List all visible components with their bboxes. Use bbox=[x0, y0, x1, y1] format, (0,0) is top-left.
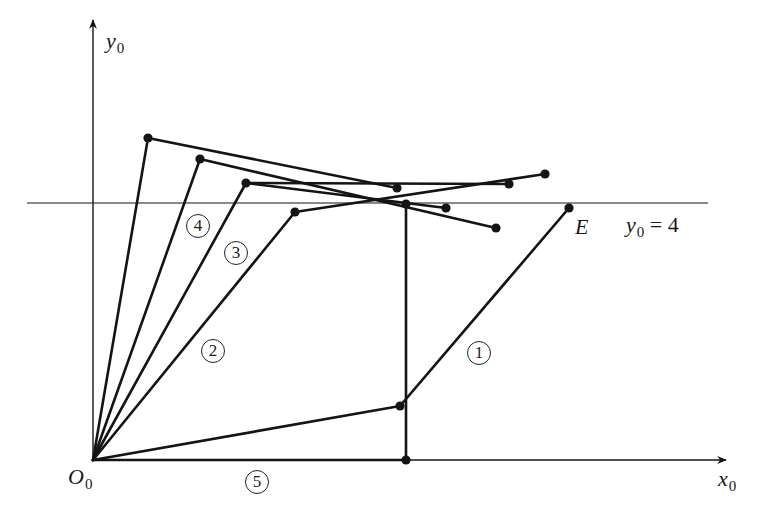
link-path-b-2 bbox=[200, 159, 496, 228]
joint-dot bbox=[401, 199, 410, 208]
joint-dot bbox=[491, 223, 500, 232]
y-axis-label: y0 bbox=[106, 28, 124, 54]
reference-label-sub: 0 bbox=[637, 224, 645, 240]
link-path-a-2 bbox=[148, 138, 397, 188]
reference-label-rest: = 4 bbox=[644, 212, 678, 237]
link-path-f-1 bbox=[93, 406, 400, 460]
origin-label: O0 bbox=[68, 464, 92, 490]
joint-dot bbox=[441, 203, 450, 212]
link-path-d-1 bbox=[93, 212, 295, 460]
joint-dot bbox=[395, 401, 404, 410]
joint-dot bbox=[290, 207, 299, 216]
origin-label-sub: 0 bbox=[85, 476, 93, 492]
x-axis-label-sub: 0 bbox=[729, 478, 737, 494]
link-path-c-2 bbox=[246, 183, 509, 184]
path-label-3: 3 bbox=[224, 241, 248, 265]
path-label-2: 2 bbox=[201, 339, 225, 363]
y-axis-label-sub: 0 bbox=[117, 40, 125, 56]
link-path-b-1 bbox=[93, 159, 200, 460]
x-axis-label-base: x bbox=[718, 466, 728, 491]
joint-dot bbox=[392, 183, 401, 192]
joint-dot bbox=[401, 455, 410, 464]
path-label-4: 4 bbox=[186, 214, 210, 238]
path-label-1: 1 bbox=[467, 341, 491, 365]
linkage-diagram bbox=[0, 0, 763, 519]
origin-label-base: O bbox=[68, 464, 84, 489]
reference-label-base: y bbox=[626, 212, 636, 237]
x-axis-label: x0 bbox=[718, 466, 736, 492]
joint-dot bbox=[241, 178, 250, 187]
joint-dot bbox=[143, 133, 152, 142]
y-axis-label-base: y bbox=[106, 28, 116, 53]
link-path-f-2 bbox=[400, 208, 569, 406]
linkage-paths bbox=[93, 138, 569, 460]
path-label-5: 5 bbox=[245, 470, 269, 494]
joint-dot bbox=[540, 169, 549, 178]
endpoint-e-label: E bbox=[575, 214, 588, 240]
endpoint-e-dot bbox=[564, 203, 573, 212]
joint-dot bbox=[504, 179, 513, 188]
joint-dot bbox=[195, 154, 204, 163]
reference-line-label: y0 = 4 bbox=[626, 212, 679, 238]
